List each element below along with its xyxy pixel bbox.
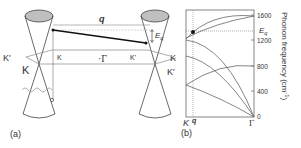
branch-1	[186, 15, 254, 39]
eq-label: Eq	[155, 31, 164, 41]
y-tick-1200: 1200	[257, 37, 272, 44]
left-kprime-label: K'	[3, 53, 11, 63]
inner-kprime-label: K'	[130, 54, 136, 61]
gamma-label: ·Γ	[98, 53, 107, 64]
right-kprime-label: K'	[167, 67, 175, 77]
y-tick-0: 0	[257, 113, 261, 120]
x-k-label: K	[183, 118, 190, 128]
left-k-label: K	[22, 64, 30, 76]
plot-frame	[186, 10, 254, 117]
figure-canvas: q Eq ·Γ K K' K' K K K' (a)	[0, 0, 301, 148]
branch-6	[186, 85, 254, 117]
x-gamma-label: Γ	[249, 118, 254, 128]
inner-k-label: K	[57, 54, 62, 61]
eq-axis-label: Eq	[259, 26, 268, 36]
panel-a: q Eq ·Γ K K' K' K K K' (a)	[3, 10, 176, 139]
y-tick-400: 400	[257, 88, 268, 95]
y-tick-1600: 1600	[257, 12, 272, 19]
transition-point	[191, 30, 195, 34]
hole-marker	[50, 98, 53, 101]
branch-2	[186, 16, 254, 38]
panel-b-label: (b)	[181, 128, 192, 138]
y-tick-800: 800	[257, 63, 268, 70]
right-k-label: K	[170, 53, 176, 63]
q-label: q	[99, 14, 105, 24]
panel-a-label: (a)	[10, 129, 21, 139]
scattering-arrow	[53, 30, 146, 43]
y-axis-title: Phonon frequency (cm-1)	[280, 12, 290, 100]
panel-b-chart: 1600 1200 800 400 0 Eq K q Γ (b) Phonon …	[181, 10, 290, 138]
x-q-label: q	[192, 117, 197, 125]
